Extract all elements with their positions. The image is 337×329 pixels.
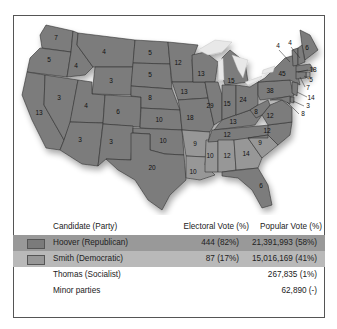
label-ia: 13: [180, 88, 188, 95]
label-fl: 6: [259, 182, 263, 189]
democratic-swatch: [27, 255, 45, 265]
label-al: 12: [223, 152, 231, 159]
candidate-name: Smith (Democratic): [53, 254, 123, 263]
label-tx: 20: [148, 164, 156, 171]
label-ga: 14: [242, 150, 250, 157]
label-nc: 12: [263, 127, 271, 134]
electoral-map: 7 5 13 4 3 4 3 4 3 6 3 5 5 8 10 10 20 12…: [0, 0, 337, 215]
label-la: 10: [189, 168, 197, 175]
label-ma: 18: [309, 66, 317, 73]
label-wv: 8: [254, 108, 258, 115]
label-mi: 15: [227, 77, 235, 84]
popular-vote: 15,016,169 (41%): [252, 254, 317, 263]
table-row-hoover: Hoover (Republican) 444 (82%) 21,391,993…: [13, 235, 325, 251]
label-wi: 13: [197, 70, 205, 77]
table-row-thomas: Thomas (Socialist) 267,835 (1%): [13, 267, 325, 283]
label-mo: 18: [186, 114, 194, 121]
state-ct: [296, 72, 306, 79]
results-table: Candidate (Party) Electoral Vote (%) Pop…: [13, 219, 325, 299]
label-nm: 3: [109, 138, 113, 145]
label-nj: 14: [307, 94, 315, 101]
state-fl: [222, 168, 272, 208]
state-wi: [192, 52, 218, 82]
label-ms: 10: [206, 152, 214, 159]
republican-swatch: [27, 239, 45, 249]
label-tn: 12: [223, 131, 231, 138]
label-in: 15: [223, 100, 231, 107]
label-ut: 4: [84, 102, 88, 109]
label-ct: 7: [306, 84, 310, 91]
label-ca: 13: [35, 109, 43, 116]
label-ri: 5: [309, 76, 313, 83]
label-wy: 3: [109, 77, 113, 84]
popular-vote: 21,391,993 (58%): [252, 238, 317, 247]
label-nd: 5: [148, 49, 152, 56]
candidate-name: Minor parties: [53, 286, 100, 295]
label-co: 6: [116, 108, 120, 115]
header-electoral: Electoral Vote (%): [183, 222, 249, 231]
label-ne: 8: [148, 94, 152, 101]
table-row-minor: Minor parties 62,890 (-): [13, 283, 325, 299]
label-wa: 7: [54, 34, 58, 41]
popular-vote: 62,890 (-): [282, 286, 318, 295]
label-ky: 13: [229, 118, 237, 125]
label-ny: 45: [278, 70, 286, 77]
electoral-vote: 87 (17%): [206, 254, 239, 263]
label-va: 12: [266, 112, 274, 119]
label-vt: 4: [276, 42, 280, 49]
table-header: Candidate (Party) Electoral Vote (%) Pop…: [13, 219, 325, 235]
label-oh: 24: [239, 96, 247, 103]
label-mt: 4: [102, 48, 106, 55]
candidate-name: Hoover (Republican): [53, 238, 128, 247]
label-id: 4: [74, 62, 78, 69]
label-il: 29: [206, 102, 214, 109]
header-candidate: Candidate (Party): [53, 222, 117, 231]
label-sd: 5: [148, 71, 152, 78]
label-nv: 3: [57, 94, 61, 101]
lake-michigan: [218, 58, 224, 80]
table-row-smith: Smith (Democratic) 87 (17%) 15,016,169 (…: [13, 251, 325, 267]
electoral-vote: 444 (82%): [201, 238, 239, 247]
label-nh: 4: [288, 39, 292, 46]
label-ar: 9: [193, 140, 197, 147]
label-me: 6: [305, 44, 309, 51]
state-co: [103, 95, 141, 127]
label-de: 3: [306, 102, 310, 109]
label-or: 5: [47, 56, 51, 63]
popular-vote: 267,835 (1%): [268, 270, 317, 279]
label-az: 3: [78, 136, 82, 143]
label-pa: 38: [266, 87, 274, 94]
state-de: [290, 97, 294, 103]
label-mn: 12: [174, 59, 182, 66]
state-vt: [292, 48, 298, 66]
label-sc: 9: [258, 139, 262, 146]
state-ia: [172, 82, 208, 100]
label-ok: 10: [159, 137, 167, 144]
candidate-name: Thomas (Socialist): [53, 270, 121, 279]
header-popular: Popular Vote (%): [260, 222, 322, 231]
label-ks: 10: [155, 116, 163, 123]
label-md: 8: [301, 110, 305, 117]
